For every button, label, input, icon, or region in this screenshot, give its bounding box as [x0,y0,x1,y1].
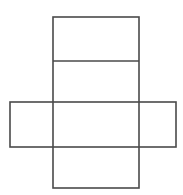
net-drawing-svg: Cube net diagram [0,0,183,195]
horizontal-strip-rect [10,102,176,147]
cube-net-figure: Cube net diagram [0,0,183,195]
